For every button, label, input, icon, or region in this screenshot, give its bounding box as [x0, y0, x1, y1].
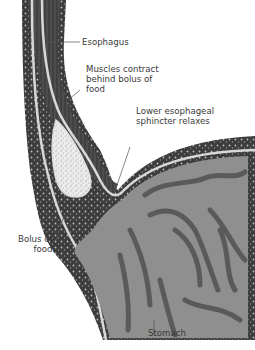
esophagus-stomach-illustration [0, 0, 255, 350]
label-esophagus: Esophagus [82, 37, 129, 47]
label-muscles-contract: Muscles contract behind bolus of food [86, 64, 159, 94]
label-stomach: Stomach [148, 328, 186, 338]
label-bolus-of-food: Bolus of food [18, 234, 52, 254]
label-sphincter-relaxes: Lower esophageal sphincter relaxes [136, 106, 214, 126]
